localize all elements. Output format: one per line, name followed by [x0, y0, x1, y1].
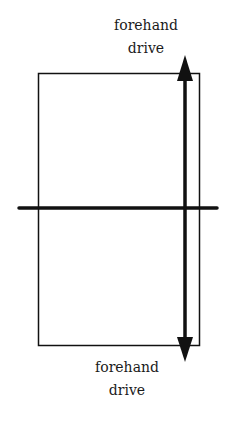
top-label-line1: forehand: [91, 14, 201, 37]
top-label: forehand drive: [91, 14, 201, 60]
bottom-label-line2: drive: [72, 379, 182, 402]
bottom-label-line1: forehand: [72, 356, 182, 379]
top-label-line2: drive: [91, 37, 201, 60]
bottom-label: forehand drive: [72, 356, 182, 402]
